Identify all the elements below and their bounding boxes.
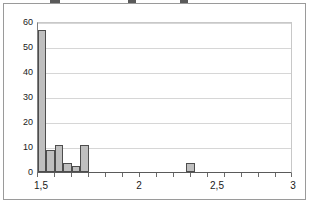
chart-frame: 60 50 40 30 20 10 0 (3, 3, 306, 200)
x-tick-label-3: 3 (278, 180, 308, 191)
chart-screenshot: 60 50 40 30 20 10 0 (0, 0, 309, 203)
x-tick-label-2: 2 (124, 180, 154, 191)
x-tick (291, 173, 292, 177)
x-axis-ticks (37, 173, 292, 177)
histogram-bar (46, 150, 54, 172)
x-tick (207, 173, 208, 177)
x-axis: 1,5 2 2,5 3 (37, 180, 292, 194)
x-tick (122, 173, 123, 177)
y-tick-label-40: 40 (7, 68, 33, 77)
x-tick (275, 173, 276, 177)
plot-area (37, 22, 292, 173)
x-tick (71, 173, 72, 177)
x-tick (173, 173, 174, 177)
histogram-bar (186, 163, 194, 172)
histogram-bar (80, 145, 88, 172)
x-tick (224, 173, 225, 177)
x-tick (105, 173, 106, 177)
y-tick-label-10: 10 (7, 143, 33, 152)
x-tick (37, 173, 38, 177)
histogram-bar (55, 145, 63, 172)
x-tick (54, 173, 55, 177)
x-tick (241, 173, 242, 177)
y-tick-label-60: 60 (7, 18, 33, 27)
histogram-bar (72, 166, 80, 172)
histogram-bar (63, 163, 71, 172)
x-tick (190, 173, 191, 177)
bars-layer (38, 23, 291, 172)
x-tick (139, 173, 140, 177)
x-tick (88, 173, 89, 177)
x-tick (156, 173, 157, 177)
y-tick-label-20: 20 (7, 118, 33, 127)
x-tick (258, 173, 259, 177)
histogram-bar (38, 30, 46, 172)
y-axis: 60 50 40 30 20 10 0 (4, 22, 33, 173)
x-tick-label-2-5: 2,5 (202, 180, 232, 191)
y-tick-label-30: 30 (7, 93, 33, 102)
y-tick-label-50: 50 (7, 43, 33, 52)
y-tick-label-0: 0 (7, 168, 33, 177)
x-tick-label-1-5: 1,5 (26, 180, 56, 191)
